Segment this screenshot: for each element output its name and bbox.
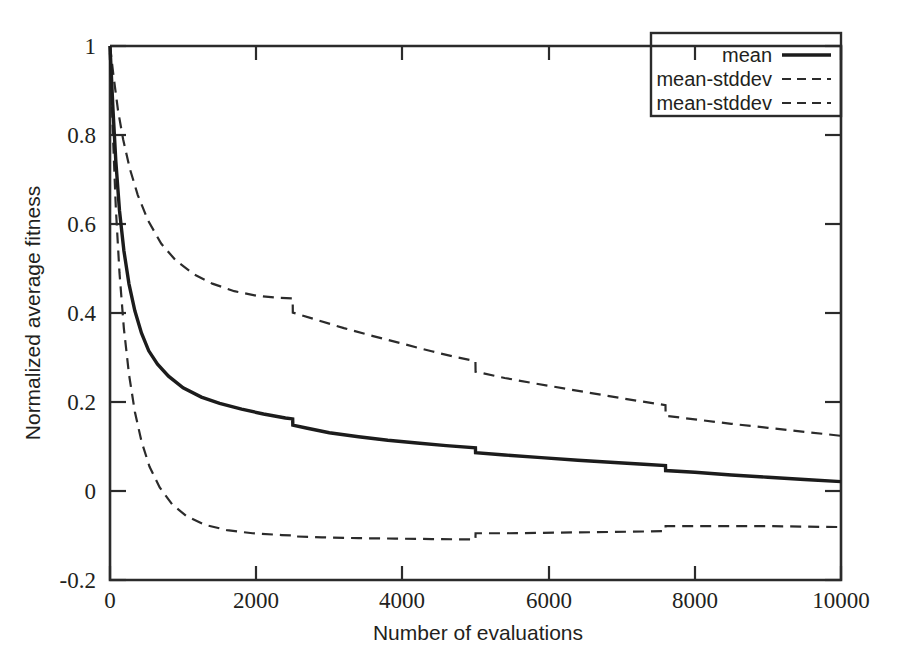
x-tick-label: 4000 (379, 588, 425, 613)
x-tick-label: 2000 (233, 588, 279, 613)
x-tick-label: 10000 (812, 588, 870, 613)
x-tick-label: 6000 (526, 588, 572, 613)
legend-label-mean-minus-stddev: mean-stddev (656, 92, 772, 114)
y-tick-label: 0.6 (67, 212, 96, 237)
y-tick-label: 0 (85, 479, 97, 504)
x-axis-title: Number of evaluations (373, 621, 583, 644)
y-axis-title: Normalized average fitness (21, 186, 44, 440)
legend-label-mean: mean (722, 44, 772, 66)
legend-label-mean-plus-stddev: mean-stddev (656, 68, 772, 90)
y-tick-label: 0.4 (67, 301, 96, 326)
y-tick-label: 0.8 (67, 123, 96, 148)
y-tick-label: 0.2 (67, 390, 96, 415)
chart-figure: 1 0.8 0.6 0.4 0.2 0 -0.2 0 2000 4000 600… (0, 0, 909, 657)
y-tick-label: -0.2 (60, 568, 96, 593)
line-chart: 1 0.8 0.6 0.4 0.2 0 -0.2 0 2000 4000 600… (0, 0, 909, 657)
chart-background (0, 0, 909, 657)
y-tick-label: 1 (85, 34, 97, 59)
x-tick-label: 0 (104, 588, 116, 613)
x-tick-label: 8000 (672, 588, 718, 613)
